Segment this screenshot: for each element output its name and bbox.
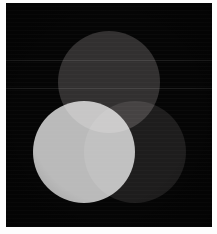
dark-plate — [6, 3, 212, 227]
disc-left — [33, 101, 135, 203]
screenshot-root: Additive color mixing — three overlappin… — [0, 0, 217, 234]
